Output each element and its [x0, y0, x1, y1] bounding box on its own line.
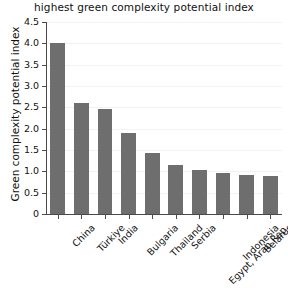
bar — [121, 133, 136, 214]
bar-chart-figure: highest green complexity potential index… — [0, 0, 288, 308]
x-tick-mark — [199, 215, 200, 219]
chart-title: highest green complexity potential index — [0, 1, 288, 14]
x-tick-mark — [81, 215, 82, 219]
y-tick-mark — [42, 171, 46, 172]
x-tick-mark — [152, 215, 153, 219]
bar — [216, 173, 231, 214]
x-tick-mark — [58, 215, 59, 219]
y-tick-label: 3.0 — [0, 81, 39, 91]
bar-series — [46, 22, 282, 214]
y-tick-label: 4.5 — [0, 17, 39, 27]
bar — [74, 103, 89, 214]
y-tick-mark — [42, 86, 46, 87]
y-tick-label: 3.5 — [0, 60, 39, 70]
y-tick-label: 0 — [0, 209, 39, 219]
plot-area — [46, 22, 282, 214]
y-tick-mark — [42, 43, 46, 44]
y-tick-mark — [42, 150, 46, 151]
y-tick-label: 4.0 — [0, 38, 39, 48]
bar — [50, 43, 65, 214]
x-tick-mark — [105, 215, 106, 219]
x-tick-mark — [176, 215, 177, 219]
y-tick-mark — [42, 193, 46, 194]
x-tick-mark — [129, 215, 130, 219]
y-tick-label: 2.0 — [0, 124, 39, 134]
bar — [168, 165, 183, 214]
y-tick-mark — [42, 129, 46, 130]
y-tick-mark — [42, 214, 46, 215]
y-tick-label: 1.0 — [0, 166, 39, 176]
bar — [145, 153, 160, 214]
x-tick-mark — [270, 215, 271, 219]
y-tick-mark — [42, 22, 46, 23]
y-tick-mark — [42, 107, 46, 108]
y-tick-label: 1.5 — [0, 145, 39, 155]
bar — [98, 109, 113, 214]
x-tick-label: China — [70, 222, 97, 249]
bar — [192, 170, 207, 214]
x-tick-mark — [247, 215, 248, 219]
y-axis-line — [46, 22, 47, 215]
y-tick-mark — [42, 65, 46, 66]
x-tick-mark — [223, 215, 224, 219]
bar — [239, 175, 254, 214]
y-tick-label: 0.5 — [0, 188, 39, 198]
bar — [263, 176, 278, 214]
y-tick-label: 2.5 — [0, 102, 39, 112]
